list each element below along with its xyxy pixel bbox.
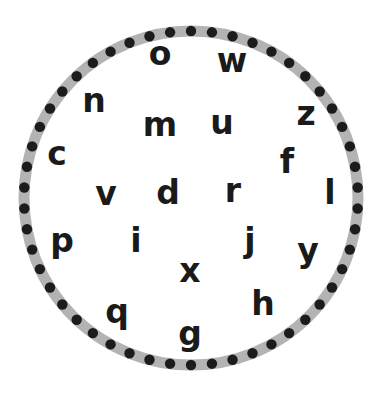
ring-dot [35,264,45,274]
ring-dot [27,244,37,254]
ring-dot [352,182,362,192]
ring-dot [124,38,134,48]
ring-dot [45,103,55,113]
letter-j: j [244,224,255,257]
letter-d: d [156,176,180,209]
ring-dot [88,328,98,338]
letter-l: l [324,176,335,209]
ring-dot [57,86,67,96]
ring-dot [207,27,217,37]
ring-dot [88,58,98,68]
letter-circle-worksheet: ownmuzcfvdrlpijyxqhg [0,0,382,395]
letter-m: m [143,108,177,141]
ring-dot [247,348,257,358]
ring-dot [337,122,347,132]
ring-dot [352,203,362,213]
letter-w: w [217,44,248,77]
ring-dot [35,122,45,132]
letter-h: h [251,287,275,320]
ring-dot [22,162,32,172]
letter-g: g [178,317,202,350]
ring-dot [19,182,29,192]
ring-dot [350,224,360,234]
letter-i: i [130,224,141,257]
ring-dot [266,46,276,56]
ring-dot [105,339,115,349]
ring-dot [186,360,196,370]
ring-dot [345,141,355,151]
letter-c: c [47,137,67,170]
ring-dot [300,315,310,325]
ring-dot [350,162,360,172]
ring-dot [327,282,337,292]
letter-p: p [50,224,74,257]
ring-dot [266,339,276,349]
ring-dot [247,38,257,48]
ring-dot [22,224,32,234]
letter-q: q [105,295,129,328]
ring-dot [207,358,217,368]
ring-dot [19,203,29,213]
letter-x: x [179,254,200,287]
letter-y: y [297,234,319,267]
ring-dot [314,86,324,96]
ring-dot [45,282,55,292]
ring-dot [284,328,294,338]
letter-v: v [95,177,117,210]
ring-dot [337,264,347,274]
letter-n: n [82,84,106,117]
ring-dot [105,46,115,56]
ring-dot [144,355,154,365]
ring-dot [71,71,81,81]
ring-dot [314,299,324,309]
ring-dot [165,358,175,368]
letter-r: r [225,174,241,207]
ring-dot [57,299,67,309]
letter-f: f [280,145,294,178]
ring-dot [300,71,310,81]
letter-z: z [296,97,315,130]
ring-dot [124,348,134,358]
ring-dot [186,26,196,36]
ring-dot [284,58,294,68]
letter-u: u [210,106,234,139]
ring-dot [71,315,81,325]
letter-o: o [149,37,172,70]
ring-dot [27,141,37,151]
ring-dot [345,244,355,254]
ring-dot [327,103,337,113]
ring-dot [227,355,237,365]
